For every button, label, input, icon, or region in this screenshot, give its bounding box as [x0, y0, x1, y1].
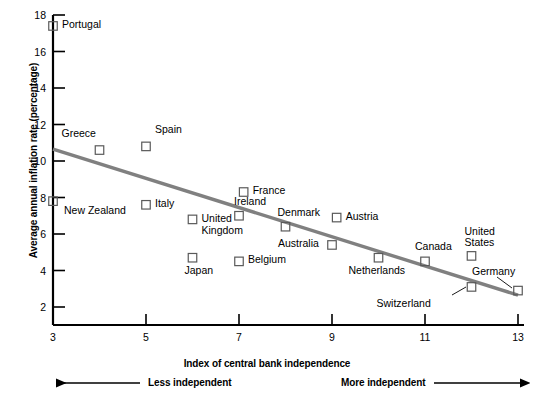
more-independent-label: More independent: [341, 377, 426, 388]
marker-switzerland: [467, 283, 476, 292]
point-label-belgium: Belgium: [248, 254, 286, 266]
y-tick-label: 12: [20, 119, 46, 131]
y-tick-label: 18: [20, 9, 46, 21]
marker-united-kingdom: [188, 215, 197, 224]
point-label-japan: Japan: [185, 265, 214, 277]
point-label-new-zealand: New Zealand: [64, 205, 126, 217]
leader-line: [452, 287, 466, 295]
y-tick-label: 4: [20, 265, 46, 277]
y-axis-ticks: [53, 15, 65, 307]
x-tick-label: 7: [219, 331, 259, 343]
marker-japan: [188, 253, 197, 262]
marker-austria: [332, 213, 341, 222]
less-independent-label: Less independent: [148, 377, 231, 388]
x-tick-label: 3: [33, 331, 73, 343]
point-label-spain: Spain: [155, 124, 182, 136]
x-tick-label: 13: [498, 331, 534, 343]
y-tick-label: 2: [20, 301, 46, 313]
point-label-italy: Italy: [155, 198, 174, 210]
x-axis-ticks: [53, 314, 518, 325]
point-label-netherlands: Netherlands: [349, 265, 406, 277]
marker-greece: [95, 146, 104, 155]
chart-figure: Average annual inflation rate (percentag…: [0, 0, 534, 401]
point-label-switzerland: Switzerland: [377, 298, 431, 310]
marker-italy: [142, 201, 151, 210]
point-label-ireland: Ireland: [234, 196, 266, 208]
marker-belgium: [235, 257, 244, 266]
marker-spain: [142, 142, 151, 151]
x-tick-label: 9: [312, 331, 352, 343]
marker-united-states: [467, 252, 476, 261]
point-label-australia: Australia: [278, 238, 319, 250]
y-tick-label: 16: [20, 46, 46, 58]
point-label-portugal: Portugal: [62, 19, 101, 31]
y-tick-label: 6: [20, 228, 46, 240]
label-leader-lines: [452, 277, 512, 295]
point-label-germany: Germany: [472, 266, 515, 278]
y-tick-label: 8: [20, 192, 46, 204]
scatter-plot-canvas: [0, 0, 534, 401]
point-label-united-states: United States: [465, 226, 505, 249]
marker-australia: [328, 241, 337, 250]
leader-line: [497, 277, 512, 288]
marker-netherlands: [374, 253, 383, 262]
x-tick-label: 11: [405, 331, 445, 343]
point-label-austria: Austria: [346, 211, 379, 223]
point-label-united-kingdom: United Kingdom: [202, 213, 254, 236]
point-label-greece: Greece: [62, 128, 96, 140]
point-label-canada: Canada: [415, 241, 452, 253]
y-tick-label: 10: [20, 155, 46, 167]
point-label-denmark: Denmark: [278, 207, 321, 219]
y-tick-label: 14: [20, 82, 46, 94]
x-tick-label: 5: [126, 331, 166, 343]
